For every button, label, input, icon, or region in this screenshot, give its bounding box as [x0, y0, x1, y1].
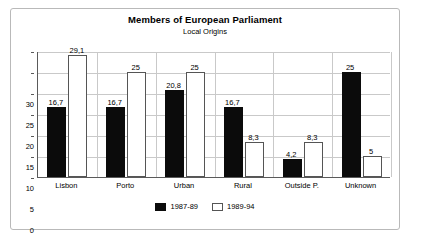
bar-value-label: 20,8 [166, 81, 181, 90]
bar-value-label: 25 [132, 63, 140, 72]
x-axis-category-label: Urban [174, 181, 194, 190]
bar-value-label: 25 [190, 63, 198, 72]
y-axis-tick-mark [31, 94, 34, 95]
bar [224, 107, 243, 177]
bar-value-label: 16,7 [107, 98, 122, 107]
category-separator [273, 52, 274, 177]
bar-value-label: 16,7 [225, 98, 240, 107]
x-axis-category-label: Rural [234, 181, 252, 190]
legend-swatch [155, 203, 166, 211]
plot-area [37, 52, 390, 178]
y-axis-tick-label: 20 [8, 142, 34, 151]
category-separator [391, 52, 392, 177]
chart-legend: 1987-891989-94 [10, 202, 400, 211]
x-axis-category-label: Unknown [345, 181, 376, 190]
y-axis: 051015202530 [0, 52, 34, 178]
y-axis-tick-mark [31, 73, 34, 74]
bar-value-label: 8,3 [248, 133, 258, 142]
bar-value-label: 5 [369, 147, 373, 156]
chart-subtitle: Local Origins [10, 27, 400, 36]
bar [68, 55, 87, 177]
y-axis-tick-mark [31, 157, 34, 158]
bar-value-label: 29,1 [70, 46, 85, 55]
x-axis-category-label: Lisbon [55, 181, 77, 190]
y-axis-tick-label: 0 [8, 226, 34, 235]
chart-canvas: Members of European Parliament Local Ori… [0, 0, 428, 238]
bar [363, 156, 382, 177]
bar [342, 72, 361, 177]
bar [127, 72, 146, 177]
bar [186, 72, 205, 177]
legend-label: 1987-89 [170, 202, 198, 211]
bar-value-label: 4,2 [286, 150, 296, 159]
bar-value-label: 16,7 [49, 98, 64, 107]
y-axis-tick-label: 30 [8, 100, 34, 109]
bar [304, 142, 323, 177]
chart-title: Members of European Parliament [10, 14, 400, 25]
legend-swatch [212, 203, 223, 211]
y-axis-tick-mark [31, 136, 34, 137]
y-axis-tick-mark [31, 52, 34, 53]
bar [245, 142, 264, 177]
y-axis-tick-mark [31, 115, 34, 116]
category-separator [332, 52, 333, 177]
x-axis-category-label: Porto [116, 181, 134, 190]
legend-item: 1989-94 [212, 202, 255, 211]
bar [106, 107, 125, 177]
bar [165, 90, 184, 177]
y-axis-tick-label: 25 [8, 121, 34, 130]
bar-value-label: 8,3 [307, 133, 317, 142]
x-axis-category-label: Outside P. [285, 181, 319, 190]
y-axis-tick-mark [31, 178, 34, 179]
y-axis-tick-label: 15 [8, 163, 34, 172]
y-axis-tick-label: 10 [8, 184, 34, 193]
legend-item: 1987-89 [155, 202, 198, 211]
category-separator [215, 52, 216, 177]
plot-wrapper [37, 52, 390, 178]
bar [283, 159, 302, 177]
category-separator [97, 52, 98, 177]
category-separator [156, 52, 157, 177]
bar-value-label: 25 [346, 63, 354, 72]
legend-label: 1989-94 [227, 202, 255, 211]
bar [47, 107, 66, 177]
